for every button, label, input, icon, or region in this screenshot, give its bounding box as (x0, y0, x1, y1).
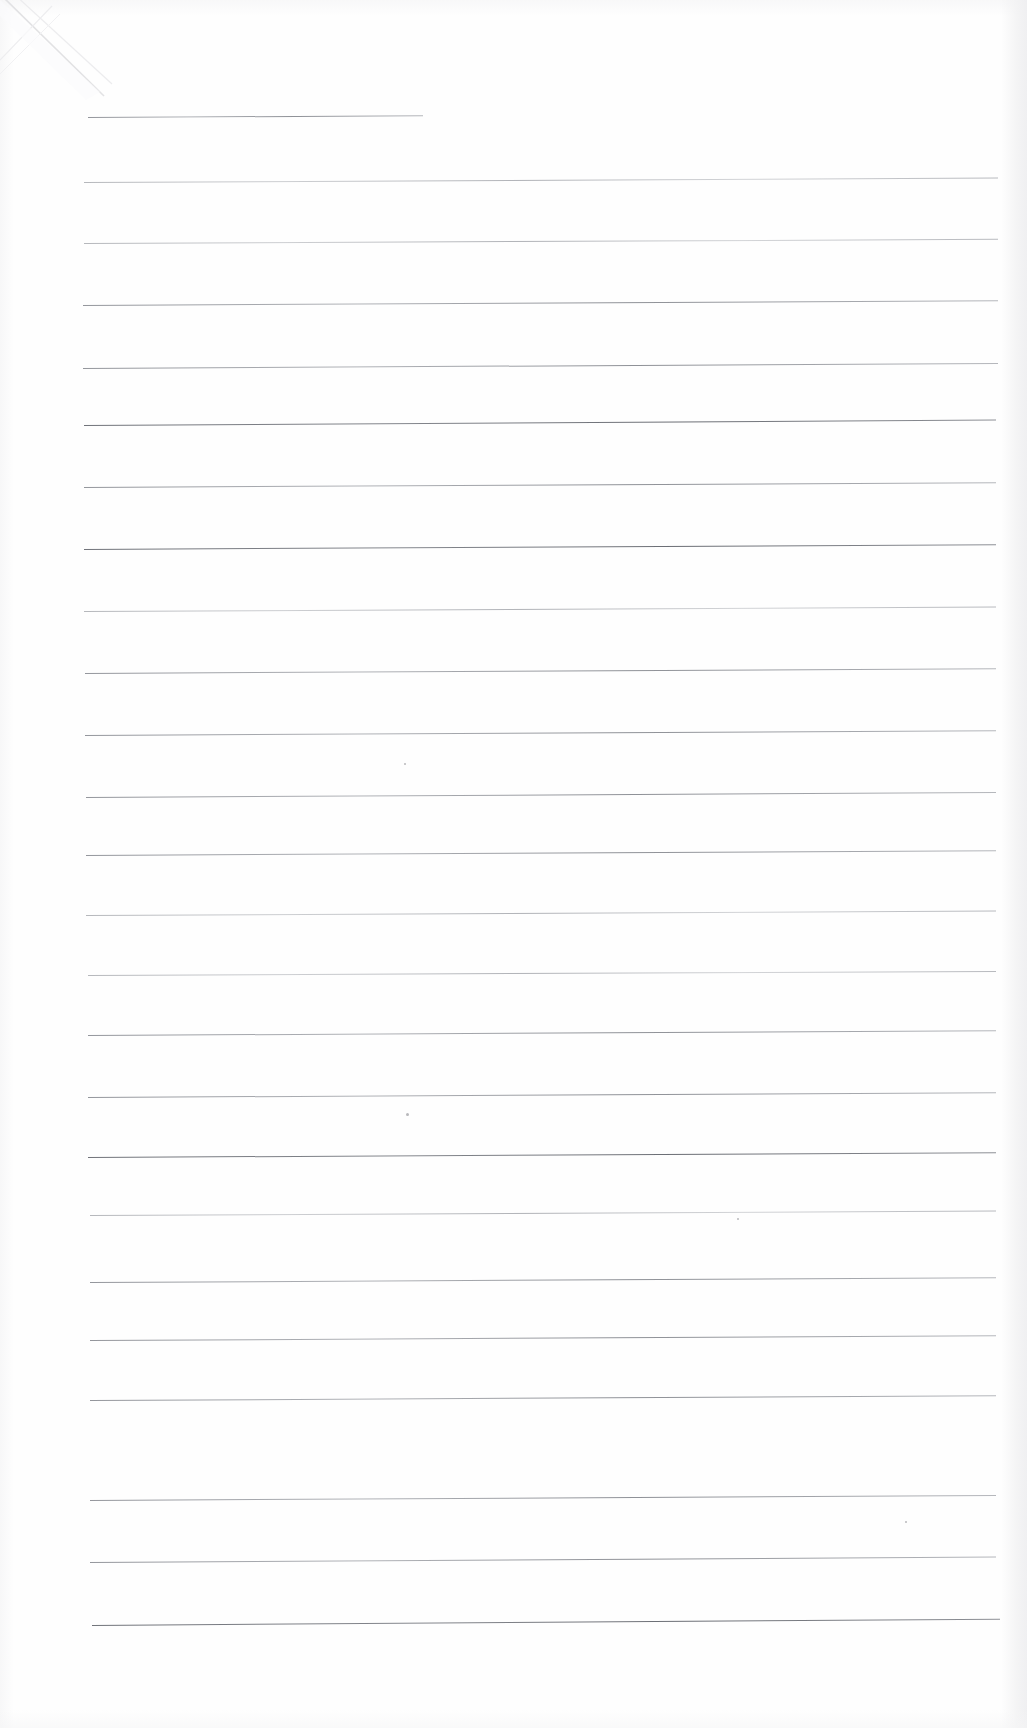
scanned-page (0, 0, 1027, 1728)
paper-sheet (0, 0, 1027, 1728)
